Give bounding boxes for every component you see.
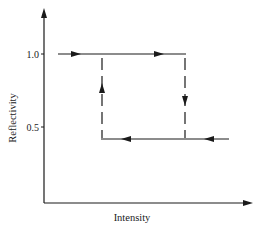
arrow-left-icon [121,136,131,142]
arrow-up-icon [99,83,105,93]
x-axis-label: Intensity [114,212,151,223]
up-switch [99,58,105,138]
lower-branch [101,136,229,142]
x-axis [44,200,253,206]
y-axis [41,8,47,203]
arrow-down-icon [182,96,188,106]
arrow-left-icon [204,136,214,142]
upper-branch [58,51,186,57]
arrow-right-icon [154,51,164,57]
y-tick-label-2: 0.5 [27,122,40,133]
x-axis-arrow-icon [243,200,253,206]
down-switch [182,58,188,138]
y-axis-arrow-icon [41,8,47,18]
hysteresis-diagram: 1.0 0.5 Intensity Reflectivity [0,0,258,227]
y-tick-label-1: 1.0 [27,49,40,60]
arrow-right-icon [71,51,81,57]
y-axis-label: Reflectivity [7,92,18,142]
